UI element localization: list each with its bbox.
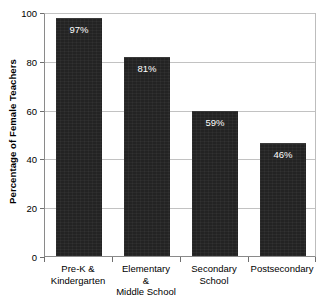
- plot-area: 97%81%59%46%: [44, 13, 316, 257]
- y-axis-tick-label: 40: [7, 154, 44, 165]
- bar-value-label: 81%: [124, 63, 170, 74]
- y-axis-tick-label: 80: [7, 56, 44, 67]
- x-axis-tick-mark: [44, 257, 45, 262]
- x-axis-category-line: Secondary: [180, 263, 248, 275]
- y-axis-tick-label: 60: [7, 105, 44, 116]
- y-axis-tick-label: 20: [7, 203, 44, 214]
- x-axis-category-line: School: [180, 275, 248, 287]
- x-axis-category-label: Postsecondary: [248, 263, 316, 275]
- bar: 46%: [260, 143, 306, 256]
- x-axis-tick-mark: [248, 257, 249, 262]
- x-axis-category-line: Postsecondary: [248, 263, 316, 275]
- bar-value-label: 97%: [56, 24, 102, 35]
- x-axis-category-line: Elementary: [112, 263, 180, 275]
- bar-chart: Percentage of Female Teachers 0204060801…: [0, 0, 325, 307]
- y-axis-tick-label: 0: [7, 252, 44, 263]
- gridline: [45, 13, 315, 14]
- x-axis-category-line: &: [112, 275, 180, 287]
- x-axis-tick-mark: [180, 257, 181, 262]
- bar: 97%: [56, 18, 102, 256]
- bar-value-label: 46%: [260, 149, 306, 160]
- x-axis-category-line: Pre-K &: [44, 263, 112, 275]
- x-axis-tick-mark: [112, 257, 113, 262]
- x-axis-category-label: Elementary&Middle School: [112, 263, 180, 298]
- x-axis-tick-mark: [315, 257, 316, 262]
- y-axis-tick-label: 100: [7, 8, 44, 19]
- bar: 59%: [192, 111, 238, 256]
- x-axis-labels: Pre-K &KindergartenElementary&Middle Sch…: [44, 263, 316, 307]
- x-axis-category-label: SecondarySchool: [180, 263, 248, 286]
- x-axis-category-line: Kindergarten: [44, 275, 112, 287]
- x-axis-category-label: Pre-K &Kindergarten: [44, 263, 112, 286]
- x-axis-ticks: [44, 257, 316, 262]
- bar-value-label: 59%: [192, 117, 238, 128]
- bar: 81%: [124, 57, 170, 256]
- y-axis-ticks: 020406080100: [0, 13, 44, 257]
- x-axis-category-line: Middle School: [112, 286, 180, 298]
